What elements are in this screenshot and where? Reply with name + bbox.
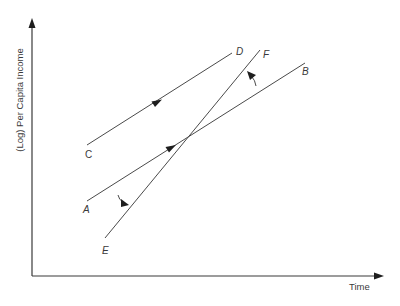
path-ab: [87, 63, 305, 201]
path-cd: [87, 53, 232, 145]
rotation-arrow-upper-stem: [252, 77, 256, 86]
x-axis-title: Time: [349, 282, 370, 292]
y-axis-title: (Log) Per Capita Income: [15, 48, 25, 152]
rotation-arrow-upper-icon: [247, 71, 256, 80]
path-cd-direction-arrow-icon: [152, 100, 163, 108]
point-label-e: E: [102, 246, 109, 256]
point-label-c: C: [85, 150, 92, 160]
x-axis-arrow-icon: [374, 273, 384, 280]
point-label-a: A: [83, 205, 90, 215]
rotation-arrow-lower-icon: [121, 199, 129, 207]
path-ab-direction-arrow-icon: [166, 145, 177, 153]
point-label-f: F: [263, 50, 269, 60]
point-label-d: D: [236, 47, 243, 57]
y-axis-arrow-icon: [29, 18, 36, 28]
path-ef: [105, 50, 260, 238]
growth-paths-diagram: [0, 0, 400, 306]
point-label-b: B: [302, 67, 309, 77]
